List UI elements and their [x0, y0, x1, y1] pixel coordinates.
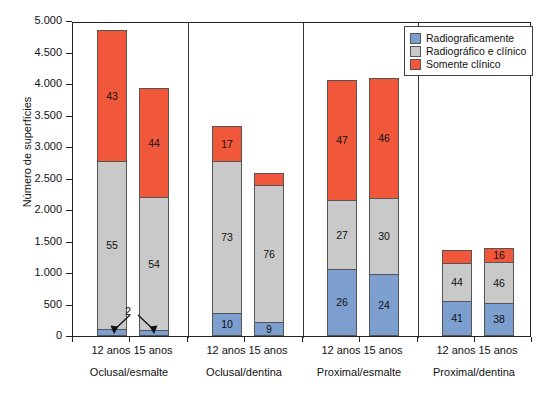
bar-segment-value: 46: [493, 278, 505, 289]
legend-label: Somente clínico: [426, 58, 501, 70]
bar-segment-gray[interactable]: 46: [484, 262, 514, 302]
bar-segment-value: 76: [263, 249, 275, 260]
legend-swatch-gray: [410, 46, 421, 57]
bar-stack[interactable]: 243046: [369, 78, 399, 336]
group-separator: [303, 23, 304, 338]
bar-segment-gray[interactable]: 27: [327, 200, 357, 269]
bar-segment-value: 38: [493, 314, 505, 325]
y-axis-tick-label: 5.000: [34, 14, 62, 26]
bar-stack[interactable]: 97616: [254, 173, 284, 336]
x-axis-age-label: 15 anos: [348, 344, 418, 356]
legend-item[interactable]: Radiográfico e clínico: [410, 45, 526, 57]
bar-segment-gray[interactable]: 30: [369, 198, 399, 274]
x-axis-tick: [187, 337, 188, 342]
bar-segment-gray[interactable]: 76: [254, 185, 284, 322]
bar-segment-red[interactable]: 15: [442, 250, 472, 263]
x-axis-age-label: 15 anos: [118, 344, 188, 356]
bar-stack[interactable]: 262747: [327, 80, 357, 336]
bar-segment-gray[interactable]: 44: [442, 263, 472, 301]
x-axis-tick: [359, 337, 360, 342]
bar-segment-value: 44: [148, 138, 160, 149]
bar-segment-red[interactable]: 16: [254, 173, 284, 186]
bar-segment-value: 44: [451, 277, 463, 288]
y-axis-tick-label: 2.500: [34, 172, 62, 184]
bar-segment-value: 17: [221, 139, 233, 150]
bar-segment-value: 55: [106, 240, 118, 251]
bar-segment-blue[interactable]: 26: [327, 269, 357, 336]
bar-segment-blue[interactable]: 24: [369, 274, 399, 336]
y-axis-tick-label: 3.500: [34, 109, 62, 121]
y-axis-tick-label: 4.000: [34, 77, 62, 89]
bar-segment-red[interactable]: 47: [327, 80, 357, 200]
y-axis-tick-label: 4.500: [34, 46, 62, 58]
bar-segment-value: 41: [451, 313, 463, 324]
legend-swatch-blue: [410, 33, 421, 44]
y-axis: 5.0004.5004.0003.5003.0002.5002.0001.500…: [0, 22, 72, 337]
bar-segment-blue[interactable]: 9: [254, 322, 284, 336]
bar-segment-value: 73: [221, 232, 233, 243]
y-axis-tick-label: 1.500: [34, 235, 62, 247]
legend-label: Radiograficamente: [426, 32, 514, 44]
bar-stack[interactable]: 25543: [97, 30, 127, 336]
y-axis-tick-label: 1.000: [34, 266, 62, 278]
bar-segment-red[interactable]: 17: [212, 126, 242, 161]
x-axis-age-label: 15 anos: [463, 344, 533, 356]
annotation-2-arrows: [104, 313, 164, 339]
bar-segment-value: 46: [378, 133, 390, 144]
y-axis-tick-label: 500: [44, 298, 62, 310]
stacked-bar-chart: Número de superfícies 5.0004.5004.0003.5…: [0, 0, 542, 393]
y-axis-tick-label: 0: [56, 329, 62, 341]
y-axis-tick-label: 3.000: [34, 140, 62, 152]
bar-segment-red[interactable]: 46: [369, 78, 399, 198]
bar-stack[interactable]: 414415: [442, 250, 472, 336]
x-axis-tick: [417, 337, 418, 342]
bar-segment-value: 27: [336, 230, 348, 241]
bar-segment-gray[interactable]: 73: [212, 161, 242, 313]
bar-stack[interactable]: 384616: [484, 248, 514, 336]
bar-segment-value: 9: [266, 324, 272, 335]
group-separator: [188, 23, 189, 338]
legend-item[interactable]: Radiograficamente: [410, 32, 526, 44]
x-axis-tick: [474, 337, 475, 342]
legend-swatch-red: [410, 59, 421, 70]
x-axis-age-label: 15 anos: [233, 344, 303, 356]
bar-segment-value: 54: [148, 259, 160, 270]
bar-segment-gray[interactable]: 54: [139, 197, 169, 329]
bar-segment-value: 30: [378, 231, 390, 242]
bar-segment-red[interactable]: 44: [139, 88, 169, 197]
bar-segment-blue[interactable]: 38: [484, 303, 514, 336]
x-axis-group-label: Proximal/dentina: [399, 366, 542, 378]
bar-segment-value: 43: [106, 91, 118, 102]
bar-stack[interactable]: 107317: [212, 126, 242, 336]
x-axis-tick: [302, 337, 303, 342]
x-axis-tick: [531, 337, 532, 342]
bar-segment-blue[interactable]: 41: [442, 301, 472, 336]
y-axis-tick-label: 2.000: [34, 203, 62, 215]
bar-segment-value: 47: [336, 135, 348, 146]
bar-segment-gray[interactable]: 55: [97, 161, 127, 329]
x-axis-tick: [72, 337, 73, 342]
bar-stack[interactable]: 25444: [139, 88, 169, 336]
bar-segment-red[interactable]: 43: [97, 30, 127, 160]
legend-item[interactable]: Somente clínico: [410, 58, 526, 70]
legend: RadiograficamenteRadiográfico e clínicoS…: [404, 26, 533, 76]
bar-segment-value: 24: [378, 300, 390, 311]
x-axis-tick: [244, 337, 245, 342]
bar-segment-blue[interactable]: 10: [212, 313, 242, 336]
bar-segment-value: 10: [221, 319, 233, 330]
legend-label: Radiográfico e clínico: [426, 45, 526, 57]
bar-segment-value: 16: [493, 250, 505, 261]
bar-segment-red[interactable]: 16: [484, 248, 514, 262]
bar-segment-value: 26: [336, 297, 348, 308]
